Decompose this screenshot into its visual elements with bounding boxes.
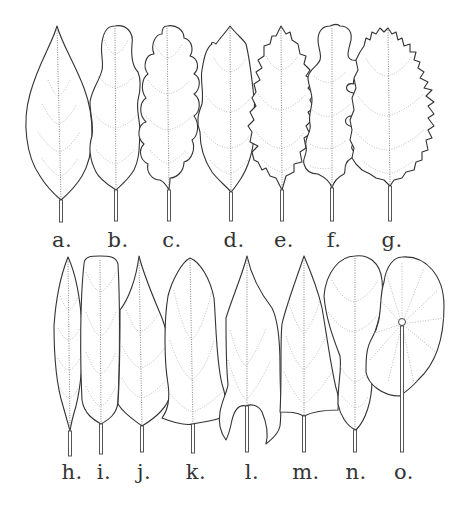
label-n: n. (345, 460, 366, 484)
label-g: g. (381, 228, 402, 252)
label-o: o. (394, 460, 414, 484)
leaf-a (26, 26, 92, 222)
leaf-j (118, 256, 172, 452)
leaf-l (219, 256, 281, 452)
label-i: i. (97, 460, 111, 484)
leaf-diagram (0, 0, 468, 507)
label-c: c. (162, 228, 181, 252)
leaf-g (350, 28, 434, 221)
label-k: k. (186, 460, 206, 484)
leaf-h (54, 257, 83, 456)
leaf-b (90, 26, 140, 221)
leaf-d (198, 26, 255, 221)
leaf-shapes-figure: a. b. c. d. e. f. g. h. i. j. k. l. m. n… (0, 0, 468, 507)
leaf-c (139, 26, 199, 221)
label-m: m. (292, 460, 320, 484)
label-d: d. (223, 228, 244, 252)
label-f: f. (327, 228, 342, 252)
leaf-e (248, 26, 314, 221)
label-l: l. (245, 460, 259, 484)
leaf-k (162, 258, 226, 453)
label-j: j. (137, 460, 151, 484)
label-e: e. (274, 228, 294, 252)
label-a: a. (52, 228, 72, 252)
leaf-i (81, 256, 120, 454)
label-h: h. (61, 460, 82, 484)
label-b: b. (107, 228, 128, 252)
